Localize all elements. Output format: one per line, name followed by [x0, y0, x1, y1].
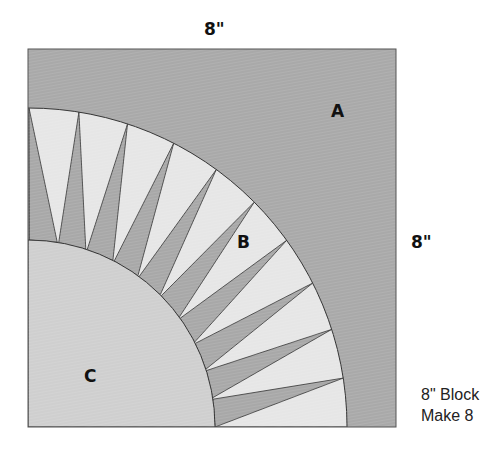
- dimension-top-label: 8": [204, 19, 225, 39]
- piece-label-a: A: [331, 101, 344, 121]
- block-note: 8" Block Make 8: [421, 384, 479, 426]
- dimension-right-label: 8": [411, 232, 432, 252]
- make-count-text: Make 8: [421, 405, 479, 426]
- piece-label-c: C: [84, 366, 96, 386]
- block-size-text: 8" Block: [421, 384, 479, 405]
- piece-label-b: B: [237, 232, 250, 252]
